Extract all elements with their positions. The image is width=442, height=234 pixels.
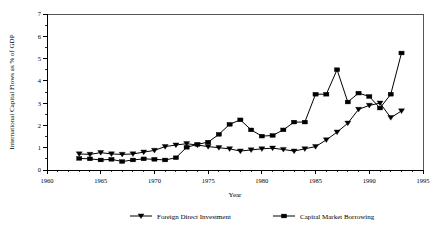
x-tick-label: 1975: [202, 177, 215, 184]
y-tick-label: 2: [38, 122, 41, 129]
y-tick-label: 4: [38, 77, 42, 84]
y-axis-title: International Capital Flows as % of GDP: [8, 34, 16, 149]
series-foreign-direct-investment: [76, 101, 404, 157]
legend-entry-capital-market-borrowing[interactable]: Capital Market Borrowing: [273, 213, 375, 221]
square-marker: [313, 92, 318, 96]
square-marker: [302, 120, 307, 124]
triangle-marker: [399, 109, 405, 114]
square-marker: [249, 128, 254, 132]
series-capital-market-borrowing: [77, 51, 404, 163]
x-tick-label: 1980: [255, 177, 268, 184]
y-tick-label: 5: [38, 55, 41, 62]
square-marker: [259, 134, 264, 138]
square-marker: [227, 122, 232, 126]
square-marker: [345, 100, 350, 104]
square-marker: [130, 158, 135, 162]
square-marker: [281, 214, 286, 218]
triangle-marker: [323, 138, 329, 143]
triangle-marker: [388, 116, 394, 121]
y-tick-label: 0: [38, 166, 41, 173]
x-tick-label: 1990: [363, 177, 376, 184]
x-tick-label: 1965: [94, 177, 107, 184]
square-marker: [109, 157, 114, 161]
triangle-marker: [291, 149, 297, 154]
square-marker: [324, 92, 329, 96]
y-tick-label: 3: [38, 100, 41, 107]
square-marker: [184, 145, 189, 149]
y-tick-label: 7: [38, 10, 42, 17]
square-marker: [87, 157, 92, 161]
x-tick-label: 1995: [417, 177, 430, 184]
square-marker: [270, 134, 275, 138]
square-marker: [98, 158, 103, 162]
square-marker: [356, 91, 361, 95]
x-axis-title: Year: [229, 191, 243, 199]
series-line: [79, 53, 401, 162]
square-marker: [238, 118, 243, 122]
square-marker: [173, 156, 178, 160]
square-marker: [77, 157, 82, 161]
square-marker: [141, 157, 146, 161]
square-marker: [120, 160, 125, 164]
series-line: [79, 103, 401, 154]
square-marker: [367, 95, 372, 99]
legend-label: Capital Market Borrowing: [300, 213, 375, 221]
legend-label: Foreign Direct Investment: [157, 213, 231, 221]
square-marker: [163, 158, 168, 162]
square-marker: [399, 51, 404, 55]
square-marker: [152, 157, 157, 161]
x-tick-label: 1970: [148, 177, 161, 184]
x-tick-label: 1985: [309, 177, 322, 184]
y-tick-label: 1: [38, 144, 41, 151]
square-marker: [334, 68, 339, 72]
square-marker: [216, 132, 221, 136]
chart-container: 0123456719601965197019751980198519901995…: [0, 0, 442, 234]
square-marker: [206, 140, 211, 144]
square-marker: [388, 92, 393, 96]
capital-flows-line-chart: 0123456719601965197019751980198519901995…: [0, 0, 442, 234]
square-marker: [377, 106, 382, 110]
x-tick-label: 1960: [41, 177, 54, 184]
y-tick-label: 6: [38, 33, 42, 40]
legend-entry-foreign-direct-investment[interactable]: Foreign Direct Investment: [130, 213, 231, 221]
square-marker: [291, 120, 296, 124]
square-marker: [281, 128, 286, 132]
square-marker: [195, 142, 200, 146]
